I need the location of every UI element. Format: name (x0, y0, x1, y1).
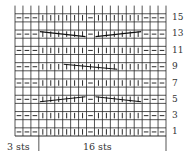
row-label-1: 1 (172, 127, 178, 136)
repeat-stitches-label: 16 sts (83, 142, 112, 152)
row-label-15: 15 (172, 13, 183, 22)
edge-stitches-label: 3 sts (7, 142, 30, 152)
row-label-11: 11 (172, 46, 183, 55)
row-label-5: 5 (172, 95, 178, 104)
row-label-3: 3 (172, 111, 178, 120)
row-label-9: 9 (172, 62, 178, 71)
row-label-13: 13 (172, 29, 183, 38)
row-label-7: 7 (172, 79, 178, 88)
